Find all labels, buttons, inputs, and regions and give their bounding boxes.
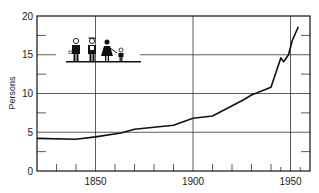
x-tick-label: 1850 — [84, 176, 107, 187]
x-tick-label: 1900 — [182, 176, 205, 187]
y-tick-label: 0 — [27, 166, 33, 177]
y-tick-label: 10 — [22, 88, 34, 99]
y-axis-title: Persons — [7, 76, 17, 110]
family-pictogram-icon — [66, 38, 141, 63]
line-chart: 05101520185019001950 Persons — [0, 0, 319, 193]
x-tick-label: 1950 — [279, 176, 302, 187]
y-tick-label: 20 — [22, 11, 34, 22]
tick-labels: 05101520185019001950 — [22, 11, 302, 188]
y-tick-label: 5 — [27, 127, 33, 138]
y-tick-label: 15 — [22, 49, 34, 60]
